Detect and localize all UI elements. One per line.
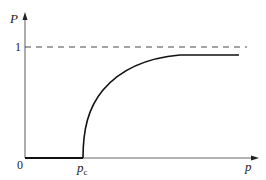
x-axis-label: p <box>245 160 252 173</box>
pc-tick-label: pc <box>77 161 88 174</box>
percolation-chart <box>0 0 266 180</box>
x-axis-arrow-icon <box>251 156 259 161</box>
y-tick-1-label: 1 <box>15 41 21 53</box>
y-axis-label: P <box>10 12 18 25</box>
pc-subscript: c <box>84 167 88 177</box>
pc-main: p <box>77 160 84 175</box>
y-axis-arrow-icon <box>23 12 28 20</box>
curve-rising-segment <box>83 55 239 158</box>
origin-label: 0 <box>17 159 23 171</box>
